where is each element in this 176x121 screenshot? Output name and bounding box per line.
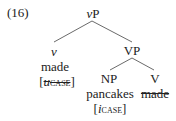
node-VP: VP [124,44,141,57]
node-V: V [150,72,159,85]
node-v: v [51,45,57,58]
node-NP: NP [101,72,118,85]
node-NP-word: pancakes [86,87,134,100]
node-vP: vP [86,7,99,20]
node-NP-feature: [icase] [94,102,127,116]
node-V-word-deleted: made [141,87,169,100]
node-v-word: made [41,60,69,73]
node-v-feature: [ucase] [39,75,75,89]
